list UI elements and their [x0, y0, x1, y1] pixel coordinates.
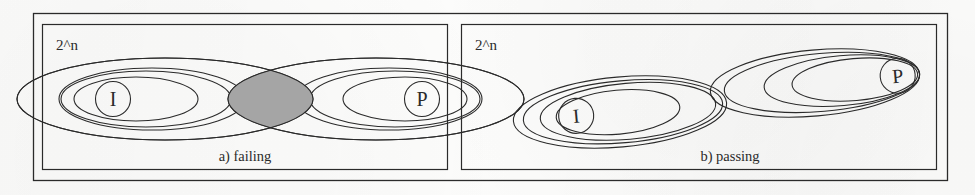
- panel-a-caption: a) failing: [219, 148, 272, 165]
- panel-a-p-ellipse-2: [310, 71, 480, 127]
- panel-a-universe-label: 2^n: [56, 37, 79, 53]
- panel-a-i-ellipse-1: [74, 77, 198, 121]
- panel-b-group-p: P: [708, 41, 923, 125]
- panel-b-p-letter: P: [891, 64, 904, 87]
- panel-b-caption: b) passing: [700, 148, 759, 165]
- panel-b-group-i: I: [510, 68, 729, 156]
- panel-a-p-letter: P: [416, 88, 427, 110]
- figure-svg: I P 2^n a) failing: [0, 0, 975, 195]
- panel-a-i-ellipse-2: [61, 71, 231, 127]
- panel-a-i-letter: I: [110, 88, 117, 110]
- figure-container: I P 2^n a) failing: [0, 0, 975, 195]
- panel-b-universe-label: 2^n: [475, 37, 498, 53]
- panel-b-box: [462, 25, 937, 170]
- panel-b-i-letter: I: [572, 105, 581, 127]
